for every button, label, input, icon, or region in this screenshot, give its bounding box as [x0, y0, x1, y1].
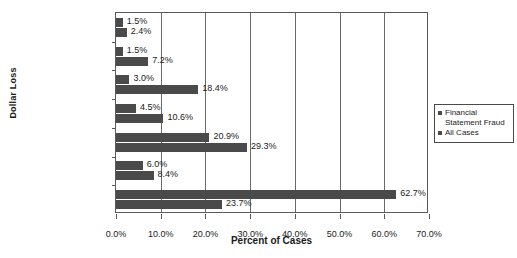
- x-axis-tick: [161, 214, 162, 219]
- bar-value-label: 23.7%: [226, 198, 252, 208]
- y-axis-tick: [112, 157, 116, 158]
- y-axis-tick: [112, 99, 116, 100]
- x-axis-tick: [250, 214, 251, 219]
- x-axis-tick: [340, 214, 341, 219]
- bar-value-label: 10.6%: [167, 112, 193, 122]
- bar-value-label: 2.4%: [131, 26, 152, 36]
- bar-value-label: 62.7%: [400, 188, 426, 198]
- bar: [116, 190, 396, 199]
- legend-label: Financial Statement Fraud: [445, 108, 509, 127]
- x-axis-tick: [205, 214, 206, 219]
- bar-value-label: 7.2%: [152, 55, 173, 65]
- bar-group: $1–$9991.5%2.4%: [116, 13, 427, 42]
- bar: [116, 75, 129, 84]
- bar-group: $1,000–$9,9991.5%7.2%: [116, 42, 427, 71]
- bar: [116, 47, 123, 56]
- y-axis-tick: [112, 128, 116, 129]
- bar-value-label: 20.9%: [213, 131, 239, 141]
- y-axis-tick: [112, 70, 116, 71]
- bar: [116, 28, 127, 37]
- bar-value-label: 3.0%: [133, 73, 154, 83]
- bar: [116, 85, 198, 94]
- bar: [116, 104, 136, 113]
- bar-value-label: 1.5%: [127, 45, 148, 55]
- legend-item[interactable]: All Cases: [438, 128, 509, 138]
- legend-swatch-icon: [438, 131, 442, 135]
- chart-legend: Financial Statement FraudAll Cases: [434, 104, 514, 143]
- bar-group: $10,000–$49,9993.0%18.4%: [116, 70, 427, 99]
- bar-value-label: 18.4%: [202, 83, 228, 93]
- bar-group: $100,000–$499,99920.9%29.3%: [116, 128, 427, 157]
- bar: [116, 171, 154, 180]
- bar: [116, 57, 148, 66]
- bar-group: $1,000,000 and up62.7%23.7%: [116, 185, 427, 214]
- bar: [116, 114, 163, 123]
- bar-value-label: 1.5%: [127, 16, 148, 26]
- bar-group: $50,000–$99,9994.5%10.6%: [116, 99, 427, 128]
- y-axis-title: Dollar Loss: [8, 58, 18, 128]
- x-axis-tick: [429, 214, 430, 219]
- bar-value-label: 29.3%: [251, 141, 277, 151]
- bar-value-label: 8.4%: [158, 169, 179, 179]
- bar-chart: Dollar Loss 0.0%10.0%20.0%30.0%40.0%50.0…: [0, 0, 517, 258]
- y-axis-tick: [112, 185, 116, 186]
- bar-group: $500,000–$999,9996.0%8.4%: [116, 157, 427, 186]
- x-axis-tick: [295, 214, 296, 219]
- plot-area: 0.0%10.0%20.0%30.0%40.0%50.0%60.0%70.0%$…: [115, 12, 428, 213]
- bar: [116, 133, 209, 142]
- bar: [116, 18, 123, 27]
- y-axis-tick: [112, 42, 116, 43]
- x-axis-title: Percent of Cases: [115, 235, 428, 246]
- bar-value-label: 6.0%: [147, 159, 168, 169]
- x-axis-tick: [116, 214, 117, 219]
- legend-swatch-icon: [438, 111, 442, 115]
- bar: [116, 143, 247, 152]
- bar: [116, 200, 222, 209]
- legend-item[interactable]: Financial Statement Fraud: [438, 108, 509, 127]
- bar: [116, 161, 143, 170]
- legend-label: All Cases: [445, 128, 479, 138]
- x-axis-tick: [384, 214, 385, 219]
- bar-value-label: 4.5%: [140, 102, 161, 112]
